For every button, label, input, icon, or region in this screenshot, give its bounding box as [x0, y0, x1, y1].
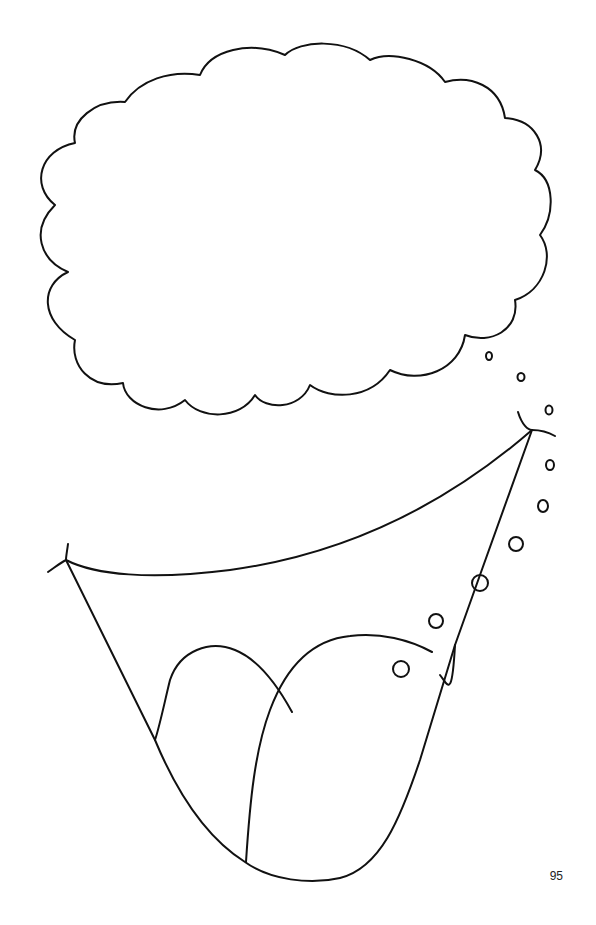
mouth-thought-illustration [0, 0, 596, 925]
mouth-left-corner [48, 544, 68, 572]
thought-bubble-small [486, 352, 492, 360]
thought-cloud [41, 44, 551, 415]
mouth-upper-line [66, 430, 532, 575]
bubble-6 [393, 661, 409, 677]
thought-bubble-medium [518, 373, 525, 381]
bubble-4 [538, 500, 548, 512]
tongue-right-lobe [246, 635, 432, 862]
bubble-3 [509, 537, 523, 551]
bubble-5 [546, 460, 554, 470]
bubble-1 [429, 614, 443, 628]
activity-page: 95 [0, 0, 596, 925]
mouth-outline [66, 430, 532, 881]
mouth-right-corner [518, 412, 555, 436]
tongue-left-lobe [155, 646, 292, 740]
thought-bubble-top [546, 406, 553, 415]
page-number: 95 [550, 869, 563, 883]
